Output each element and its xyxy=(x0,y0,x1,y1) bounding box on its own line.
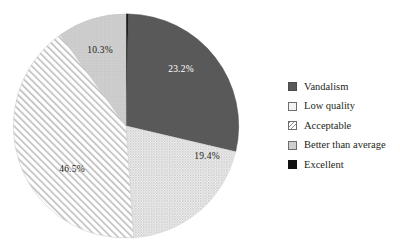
pie-label-low-quality: 19.4% xyxy=(194,151,220,161)
legend-item-better-than-average[interactable]: Better than average xyxy=(288,136,400,156)
pie-label-acceptable: 46.5% xyxy=(59,164,85,174)
legend-label-acceptable: Acceptable xyxy=(304,121,351,132)
chart-legend: Vandalism Low quality Acceptable Better … xyxy=(288,77,400,175)
legend-swatch-low-quality xyxy=(288,102,297,111)
legend-item-vandalism[interactable]: Vandalism xyxy=(288,77,400,97)
legend-label-vandalism: Vandalism xyxy=(304,82,348,93)
pie-label-vandalism: 23.2% xyxy=(168,64,194,74)
legend-label-better-than-average: Better than average xyxy=(304,140,386,151)
legend-item-acceptable[interactable]: Acceptable xyxy=(288,116,400,136)
legend-label-low-quality: Low quality xyxy=(304,101,355,112)
legend-item-excellent[interactable]: Excellent xyxy=(288,155,400,175)
pie-label-better-than-average: 10.3% xyxy=(87,45,113,55)
legend-item-low-quality[interactable]: Low quality xyxy=(288,97,400,117)
legend-swatch-acceptable xyxy=(288,121,297,130)
pie-svg: 23.2% 19.4% 46.5% 10.3% xyxy=(0,0,270,249)
legend-swatch-excellent xyxy=(288,160,297,169)
pie-chart-figure: 23.2% 19.4% 46.5% 10.3% Vandalism Low qu… xyxy=(0,0,400,249)
legend-swatch-better-than-average xyxy=(288,141,297,150)
legend-swatch-vandalism xyxy=(288,82,297,91)
pie-plot-area: 23.2% 19.4% 46.5% 10.3% xyxy=(0,0,270,249)
legend-label-excellent: Excellent xyxy=(304,160,344,171)
